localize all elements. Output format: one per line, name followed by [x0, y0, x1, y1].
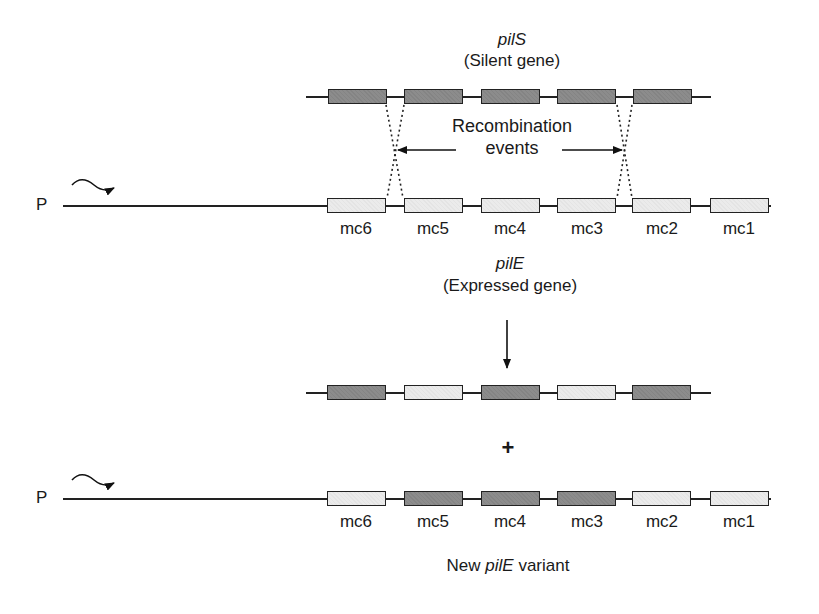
crossover-left [386, 105, 404, 198]
transcription-arrow-bottom [72, 475, 114, 485]
crossover-right [617, 105, 632, 198]
diagram-overlay [0, 0, 819, 614]
transcription-arrow-top [72, 180, 114, 190]
